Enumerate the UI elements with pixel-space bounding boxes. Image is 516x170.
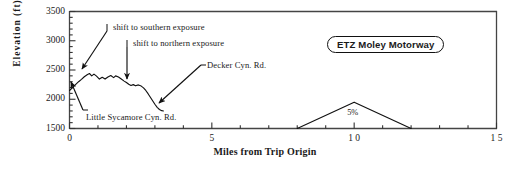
y-tick-label: 2000 xyxy=(31,93,65,103)
annotation-little-sycamore-cyn-rd: Little Sycamore Cyn. Rd. xyxy=(86,112,176,122)
y-axis-ticks xyxy=(70,12,76,129)
annotation-shift-southern: shift to southern exposure xyxy=(113,22,205,32)
y-tick-label: 3000 xyxy=(31,35,65,45)
data-label-grade-pct: 5% xyxy=(347,108,358,117)
x-tick-label: 5 xyxy=(200,133,224,143)
y-tick-label: 1500 xyxy=(31,123,65,133)
y-tick-label: 3500 xyxy=(31,6,65,16)
annotation-decker-cyn-rd: Decker Cyn. Rd. xyxy=(207,60,266,70)
elevation-profile-line xyxy=(70,74,164,111)
elevation-profile-chart: Elevation (ft) Miles from Trip Origin 15… xyxy=(0,0,516,170)
chart-canvas xyxy=(0,0,516,170)
x-tick-label: 1 0 xyxy=(342,133,366,143)
x-axis-ticks xyxy=(70,123,497,129)
x-tick-label: 0 xyxy=(58,133,82,143)
annotation-shift-northern: shift to northern exposure xyxy=(133,38,224,48)
y-axis-title: Elevation (ft) xyxy=(12,0,22,85)
x-axis-title: Miles from Trip Origin xyxy=(150,146,380,157)
x-tick-label: 1 5 xyxy=(485,133,509,143)
chart-title-box: ETZ Moley Motorway xyxy=(327,36,444,53)
y-tick-label: 2500 xyxy=(31,64,65,74)
annotation-leader-lines xyxy=(71,24,206,110)
